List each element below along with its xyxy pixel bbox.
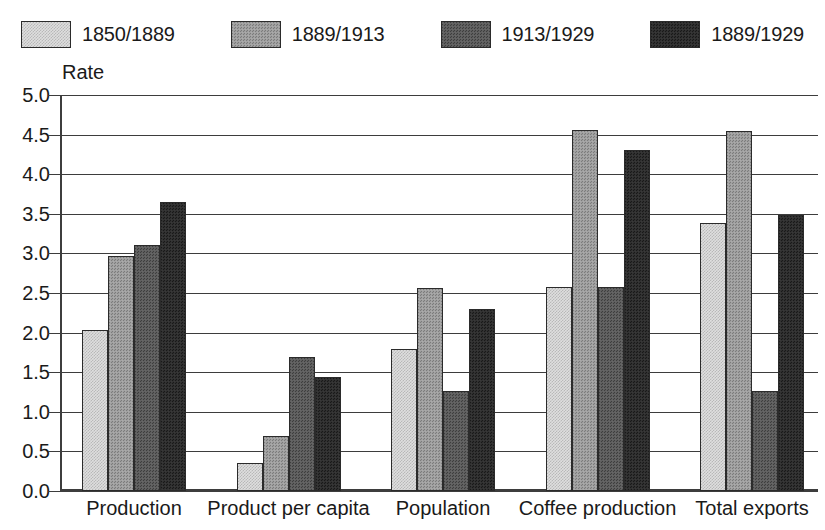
bar [443,391,469,491]
bar [624,150,650,491]
y-axis-tick-mark [48,135,60,136]
bar [726,131,752,491]
bar-chart: 1850/1889 1889/1913 1913/1929 1889/1929 … [0,0,825,530]
bar [108,256,134,491]
bar [469,309,495,491]
y-axis-tick-mark [48,372,60,373]
y-axis-tick-mark [48,451,60,452]
y-axis-tick-label: 1.5 [4,362,50,382]
bar [417,288,443,491]
y-axis-tick-mark [48,95,60,96]
bar [572,130,598,491]
bar [315,377,341,491]
y-axis-tick-label: 4.5 [4,125,50,145]
bar [752,391,778,491]
legend-swatch-icon [21,21,71,48]
y-axis-tick-label: 3.0 [4,243,50,263]
y-axis-tick-label: 2.5 [4,283,50,303]
bar-group [237,95,341,491]
bar [700,223,726,491]
legend-swatch-icon [231,21,281,48]
y-axis-tick-mark [48,491,60,492]
y-axis-tick-mark [48,293,60,294]
legend-swatch-icon [650,21,700,48]
plot-area [60,95,818,491]
legend-item-1913-1929: 1913/1929 [441,21,595,48]
y-axis-tick-mark [48,174,60,175]
bar [598,287,624,491]
bar [160,202,186,491]
bar-group [546,95,650,491]
y-axis-tick-label: 2.0 [4,323,50,343]
legend-label: 1889/1913 [292,24,385,44]
bar [263,436,289,491]
bar [134,245,160,491]
y-axis-tick-label: 4.0 [4,164,50,184]
legend-item-1850-1889: 1850/1889 [21,21,175,48]
legend-label: 1889/1929 [711,24,804,44]
legend-label: 1850/1889 [82,24,175,44]
y-axis-tick-mark [48,214,60,215]
bar [237,463,263,491]
bars-layer [60,95,818,491]
bar [289,357,315,491]
legend-item-1889-1913: 1889/1913 [231,21,385,48]
bar-group [82,95,186,491]
y-axis-tick-label: 1.0 [4,402,50,422]
y-axis-title: Rate [62,62,104,82]
bar [546,287,572,491]
y-axis-tick-label: 5.0 [4,85,50,105]
y-axis-tick-mark [48,333,60,334]
bar-group [391,95,495,491]
legend-item-1889-1929: 1889/1929 [650,21,804,48]
bar [82,330,108,491]
chart-legend: 1850/1889 1889/1913 1913/1929 1889/1929 [0,14,825,54]
y-axis-tick-label: 3.5 [4,204,50,224]
y-axis-tick-mark [48,253,60,254]
bar [391,349,417,491]
bar-group [700,95,804,491]
bar [778,215,804,491]
x-axis-category-label: Total exports [632,497,825,519]
gridline [60,491,818,492]
legend-swatch-icon [441,21,491,48]
legend-label: 1913/1929 [502,24,595,44]
y-axis-tick-mark [48,412,60,413]
y-axis-tick-label: 0.5 [4,441,50,461]
